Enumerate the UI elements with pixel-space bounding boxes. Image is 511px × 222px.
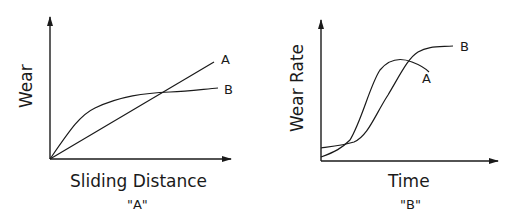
diagram-b-caption: "B" <box>400 197 421 212</box>
diagram-b-x-label: Time <box>387 171 430 191</box>
diagram-b-curve-b <box>321 46 453 148</box>
diagram-a-curve-a <box>50 62 214 159</box>
diagram-a-curve-b-label: B <box>224 82 233 97</box>
diagram-b-curve-a-label: A <box>422 71 431 86</box>
diagram-a-x-label: Sliding Distance <box>70 171 207 191</box>
wear-diagrams: A B Wear Sliding Distance "A" A B Wear R… <box>0 0 511 222</box>
diagram-a-curve-b <box>50 88 218 159</box>
diagram-b-curve-b-label: B <box>460 39 469 54</box>
diagram-a-caption: "A" <box>127 197 148 212</box>
diagram-b: A B Wear Rate Time "B" <box>287 20 498 212</box>
diagram-a-curve-a-label: A <box>221 52 230 67</box>
diagram-a-y-label: Wear <box>16 64 36 108</box>
diagram-b-y-label: Wear Rate <box>287 44 307 132</box>
diagram-a: A B Wear Sliding Distance "A" <box>16 17 233 212</box>
diagram-b-curve-a <box>321 60 429 157</box>
